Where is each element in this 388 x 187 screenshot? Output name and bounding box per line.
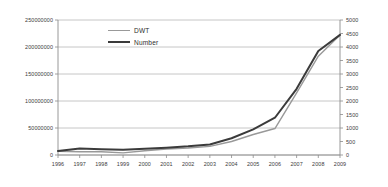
x-tick-label: 2008 — [312, 161, 324, 167]
x-tick-label: 2000 — [139, 161, 151, 167]
y-right-tick-label: 1500 — [346, 112, 358, 118]
x-tick-label: 2005 — [247, 161, 259, 167]
y-right-tick-label: 5000 — [346, 17, 358, 23]
legend-swatch-number-icon — [108, 41, 130, 43]
y-right-tick-label: 1000 — [346, 125, 358, 131]
legend-label-number: Number — [134, 39, 158, 46]
y-left-tick-label: 0 — [50, 152, 53, 158]
y-right-tick-label: 3000 — [346, 71, 358, 77]
y-right-tick-label: 3500 — [346, 58, 358, 64]
y-right-tick-label: 4500 — [346, 31, 358, 37]
y-right-tick-label: 500 — [346, 139, 355, 145]
y-left-tick-label: 150000000 — [25, 71, 53, 77]
legend-swatch-dwt-icon — [108, 30, 130, 31]
y-right-tick-label: 2500 — [346, 85, 358, 91]
series-line-number — [58, 35, 340, 151]
y-left-tick-label: 50000000 — [28, 125, 53, 131]
legend-item-dwt[interactable]: DWT — [108, 24, 200, 36]
y-right-tick-label: 2000 — [346, 98, 358, 104]
y-left-tick-label: 200000000 — [25, 44, 53, 50]
x-tick-label: 2009 — [334, 161, 346, 167]
y-right-tick-label: 4000 — [346, 44, 358, 50]
x-tick-label: 1997 — [73, 161, 85, 167]
chart-container: 0500000001000000001500000002000000002500… — [0, 0, 388, 187]
x-tick-label: 2004 — [225, 161, 237, 167]
y-right-tick-label: 0 — [346, 152, 349, 158]
legend-item-number[interactable]: Number — [108, 36, 200, 48]
y-left-tick-label: 100000000 — [25, 98, 53, 104]
x-tick-label: 2001 — [160, 161, 172, 167]
series-line-dwt — [58, 35, 340, 153]
x-tick-label: 1998 — [95, 161, 107, 167]
chart-legend: DWT Number — [108, 24, 200, 48]
x-tick-label: 2006 — [269, 161, 281, 167]
x-tick-label: 1999 — [117, 161, 129, 167]
x-tick-label: 1996 — [52, 161, 64, 167]
x-tick-label: 2007 — [290, 161, 302, 167]
legend-label-dwt: DWT — [134, 27, 149, 34]
y-left-tick-label: 250000000 — [25, 17, 53, 23]
x-tick-label: 2002 — [182, 161, 194, 167]
x-tick-label: 2003 — [204, 161, 216, 167]
y-right-tick-marks-group — [340, 20, 343, 155]
